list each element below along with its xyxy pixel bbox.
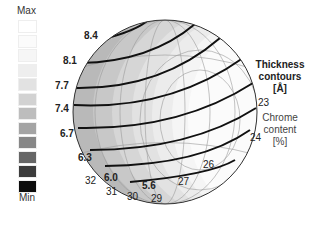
chrome-label-31: 31: [106, 187, 117, 197]
thickness-title: Thickness contours [Å]: [250, 59, 310, 95]
chrome-label-30: 30: [127, 192, 138, 202]
contour-label-8-4: 8.4: [84, 31, 98, 41]
contour-label-6-3: 6.3: [78, 153, 92, 163]
thickness-title-line1: Thickness: [250, 59, 310, 71]
contour-label-6-7: 6.7: [60, 129, 74, 139]
chrome-label-29: 29: [151, 194, 162, 204]
thickness-unit: [Å]: [250, 83, 310, 95]
chrome-label-26: 26: [203, 160, 214, 170]
contour-label-7-4: 7.4: [55, 104, 69, 114]
chrome-title: Chrome content [%]: [250, 112, 310, 148]
chrome-label-23: 23: [258, 98, 269, 108]
contour-label-5-6: 5.6: [142, 181, 156, 191]
thickness-title-line2: contours: [250, 71, 310, 83]
contour-label-6-0: 6.0: [104, 173, 118, 183]
contour-label-8-1: 8.1: [63, 56, 77, 66]
contour-label-7-7: 7.7: [55, 81, 69, 91]
chrome-label-32: 32: [85, 176, 96, 186]
chrome-title-line1: Chrome: [250, 112, 310, 124]
chrome-unit: [%]: [250, 136, 310, 148]
chrome-title-line2: content: [250, 124, 310, 136]
chrome-label-27: 27: [178, 177, 189, 187]
